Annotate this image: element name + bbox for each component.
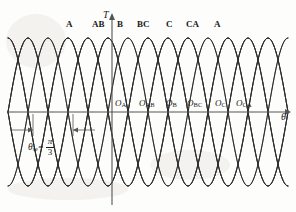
pi-over-three-fraction: π 3 [46, 137, 55, 157]
theta-symbol: θse [28, 142, 38, 152]
origin-subscript: A [122, 101, 127, 108]
phase-label: AB [92, 20, 105, 29]
phase-label: CA [186, 20, 199, 29]
y-axis-arrowhead [109, 13, 115, 20]
origin-marker-label: OC [215, 99, 226, 109]
origin-subscript: B [173, 101, 177, 108]
phase-label: A [66, 20, 73, 29]
x-axis-label: θ [281, 112, 286, 122]
origin-subscript: AB [146, 101, 155, 108]
origin-marker-label: OA [115, 99, 126, 109]
phase-label: BC [137, 20, 150, 29]
phase-label: A [214, 20, 221, 29]
origin-subscript: CA [243, 101, 252, 108]
equals-sign: = [38, 142, 43, 152]
fraction-denominator: 3 [46, 148, 55, 158]
theta-subscript: se [33, 146, 38, 152]
phase-label: B [117, 20, 123, 29]
fraction-numerator: π [46, 137, 55, 147]
origin-marker-label: OAB [139, 99, 155, 109]
origin-subscript: BC [194, 101, 203, 108]
origin-marker-label: OB [166, 99, 177, 109]
torque-angle-figure: AABBBCCCAA OAOABOBOBCOCOCA T θ θse = π 3 [0, 0, 296, 212]
dimension-arrowhead-right [73, 127, 78, 132]
origin-marker-label: OBC [187, 99, 202, 109]
phase-label: C [166, 20, 173, 29]
origin-marker-label: OCA [236, 99, 252, 109]
y-axis-label: T [103, 10, 109, 20]
step-angle-annotation: θse = π 3 [28, 137, 54, 157]
origin-subscript: C [222, 101, 226, 108]
